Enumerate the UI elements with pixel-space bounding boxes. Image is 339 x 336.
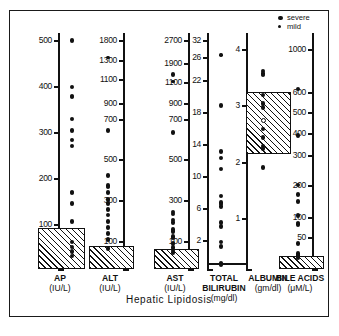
- data-point: [296, 133, 301, 138]
- axis-tick: [308, 112, 313, 114]
- figure-frame: severe mild 100200300400500AP(IU/L)10030…: [9, 10, 329, 317]
- data-point: [296, 199, 301, 204]
- axis-tick-label: 300: [276, 150, 306, 160]
- axis-tick-label: 600: [276, 87, 306, 97]
- data-point: [296, 192, 301, 197]
- figure-canvas: severe mild 100200300400500AP(IU/L)10030…: [0, 0, 339, 336]
- axis-tick-label: 100: [276, 212, 306, 222]
- panel-label-name: BILE ACIDS: [266, 273, 334, 283]
- panel-label-units: (μM/L): [266, 283, 334, 293]
- axis-tick: [308, 155, 313, 157]
- axis-tick: [308, 92, 313, 94]
- axis-tick: [308, 133, 313, 135]
- axis-tick: [308, 49, 313, 51]
- reference-range-band: [279, 256, 324, 269]
- data-point: [296, 222, 301, 227]
- panel-label: BILE ACIDS(μM/L): [266, 273, 334, 293]
- axis-tick-label: 1000: [276, 44, 306, 54]
- axis-tick-label: 200: [276, 180, 306, 190]
- axis-foot: [312, 269, 318, 271]
- panel-bile-acids: 501002003004005006001000BILE ACIDS(μM/L): [10, 11, 328, 316]
- figure-title: Hepatic Lipidosis: [10, 294, 328, 305]
- axis-tick-label: 500: [276, 107, 306, 117]
- axis-tick: [308, 217, 313, 219]
- axis-tick-label: 400: [276, 128, 306, 138]
- axis-tick: [308, 237, 313, 239]
- axis-line: [312, 33, 314, 271]
- axis-tick: [308, 185, 313, 187]
- axis-tick-label: 50: [276, 232, 306, 242]
- data-point: [296, 241, 301, 246]
